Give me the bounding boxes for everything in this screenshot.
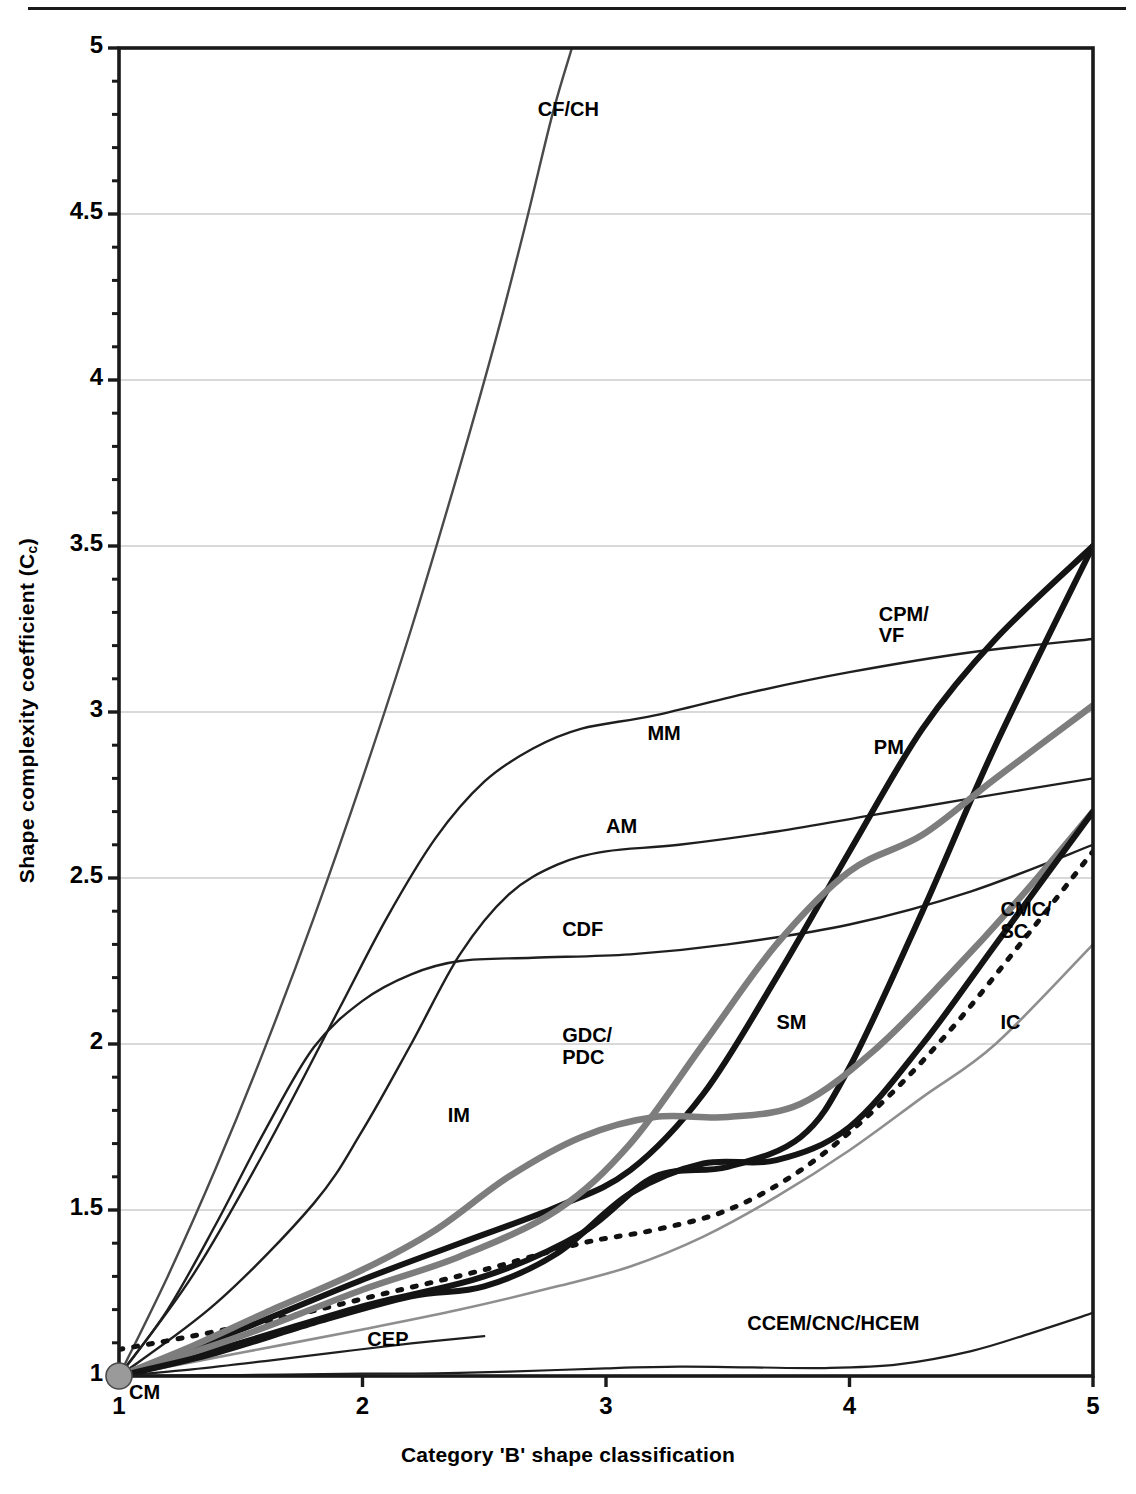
- series-label-im: IM: [448, 1105, 470, 1127]
- y-tick-label-1: 1: [23, 1361, 103, 1385]
- series-line-pm: [119, 546, 1093, 1376]
- y-tick-label-4-5: 4.5: [23, 199, 103, 223]
- y-tick-label-1-5: 1.5: [23, 1195, 103, 1219]
- series-line-sm: [119, 812, 1093, 1376]
- series-label-am: AM: [606, 816, 637, 838]
- y-tick-label-2-5: 2.5: [23, 863, 103, 887]
- x-tick-label-5: 5: [1063, 1394, 1123, 1418]
- y-tick-label-3: 3: [23, 697, 103, 721]
- y-tick-label-4: 4: [23, 365, 103, 389]
- chart-page: Shape complexity coefficient (Cc) Catego…: [0, 0, 1136, 1494]
- series-line-am: [119, 778, 1093, 1376]
- series-label-cm: CM: [129, 1382, 160, 1404]
- x-tick-label-2: 2: [333, 1394, 393, 1418]
- series-label-cep: CEP: [367, 1329, 408, 1351]
- series-label-ic: IC: [1000, 1012, 1020, 1034]
- series-line-cdf: [119, 845, 1093, 1376]
- x-axis-title: Category 'B' shape classification: [0, 1443, 1136, 1467]
- y-tick-label-3-5: 3.5: [23, 531, 103, 555]
- series-label-cf-ch: CF/CH: [538, 99, 599, 121]
- line-chart-canvas: [0, 0, 1136, 1494]
- series-label-cmc-sc: CMC/ SC: [1000, 899, 1051, 942]
- series-label-gdc-pdc: GDC/ PDC: [562, 1025, 612, 1068]
- y-tick-label-2: 2: [23, 1029, 103, 1053]
- x-tick-label-3: 3: [576, 1394, 636, 1418]
- series-label-pm: PM: [874, 737, 904, 759]
- series-label-cdf: CDF: [562, 919, 603, 941]
- series-label-mm: MM: [647, 723, 680, 745]
- series-label-ccem-cnc-hcem: CCEM/CNC/HCEM: [747, 1313, 919, 1335]
- series-line-cpm-vf: [119, 546, 1093, 1376]
- series-label-cpm-vf: CPM/ VF: [879, 604, 929, 647]
- x-tick-label-4: 4: [820, 1394, 880, 1418]
- series-label-sm: SM: [776, 1012, 806, 1034]
- y-tick-label-5: 5: [23, 33, 103, 57]
- series-line-im: [119, 812, 1093, 1376]
